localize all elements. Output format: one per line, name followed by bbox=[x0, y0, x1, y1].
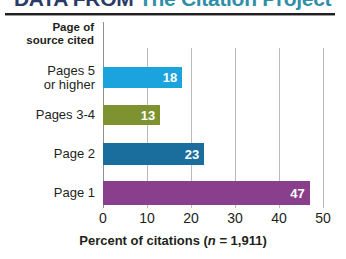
banner-title-strip: DATA FROM The Citation Project bbox=[0, 0, 346, 13]
category-label-line: Page 2 bbox=[0, 147, 95, 161]
x-tick-label-30: 30 bbox=[215, 210, 255, 226]
category-label-line: Page 1 bbox=[0, 186, 95, 200]
plot-area: 18132347 bbox=[103, 48, 323, 208]
bar-value-label: 13 bbox=[141, 109, 155, 122]
x-axis-title-head: Percent of citations ( bbox=[79, 233, 208, 248]
x-tick-label-10: 10 bbox=[127, 210, 167, 226]
category-label-line: Pages 3-4 bbox=[0, 108, 95, 122]
gridline-50 bbox=[323, 48, 324, 208]
bar-value-label: 18 bbox=[163, 71, 177, 84]
banner-title-accent: The Citation Project bbox=[139, 0, 331, 10]
x-axis-title-tail: = 1,911) bbox=[216, 233, 267, 248]
bar-page-2: 23 bbox=[103, 143, 204, 165]
category-label-pages-3-4: Pages 3-4 bbox=[0, 108, 95, 122]
category-label-page-1: Page 1 bbox=[0, 186, 95, 200]
banner-title-prefix: DATA FROM bbox=[14, 0, 133, 10]
y-axis-title: Page of source cited bbox=[0, 21, 94, 46]
x-tick-label-50: 50 bbox=[303, 210, 343, 226]
x-tick-label-20: 20 bbox=[171, 210, 211, 226]
bar-pages-3-4: 13 bbox=[103, 105, 160, 125]
category-label-line: Pages 5 bbox=[0, 64, 95, 78]
category-label-page-2: Page 2 bbox=[0, 147, 95, 161]
bar-page-1: 47 bbox=[103, 181, 310, 205]
y-axis-title-line-1: Page of bbox=[0, 21, 94, 34]
header-divider-rule-thin bbox=[5, 15, 335, 16]
x-tick-label-0: 0 bbox=[83, 210, 123, 226]
x-axis-title: Percent of citations (n = 1,911) bbox=[0, 233, 346, 248]
category-label-line: or higher bbox=[0, 78, 95, 92]
bar-pages-5-or-higher: 18 bbox=[103, 67, 182, 88]
category-label-pages-5-or-higher: Pages 5or higher bbox=[0, 64, 95, 91]
bar-value-label: 47 bbox=[290, 187, 304, 200]
banner-title: DATA FROM The Citation Project bbox=[14, 0, 331, 11]
bar-value-label: 23 bbox=[185, 148, 199, 161]
y-axis-title-line-2: source cited bbox=[0, 34, 94, 47]
x-tick-label-40: 40 bbox=[259, 210, 299, 226]
x-axis-title-n: n bbox=[208, 233, 216, 248]
